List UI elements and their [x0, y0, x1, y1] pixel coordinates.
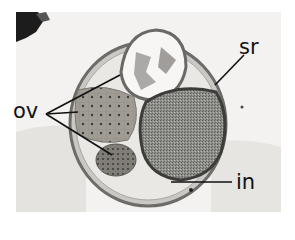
label-ov: ov [13, 101, 38, 122]
label-in: in [236, 172, 255, 193]
label-sr: sr [239, 37, 259, 58]
